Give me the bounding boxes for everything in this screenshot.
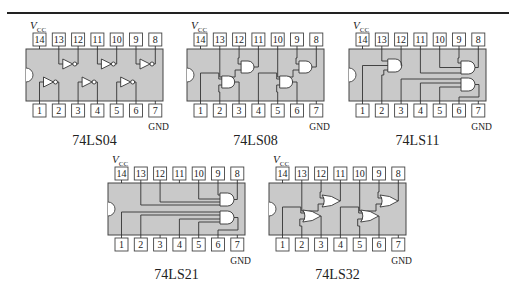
chip-part-number: 74LS21: [154, 267, 198, 282]
chip-part-number: 74LS11: [396, 133, 440, 148]
and-gate-icon: [241, 61, 254, 73]
pin-number: 10: [355, 168, 365, 179]
pin-number: 4: [256, 105, 261, 116]
pin-number: 11: [254, 34, 264, 45]
pin-number: 5: [275, 105, 280, 116]
vcc-label: VCC: [30, 19, 46, 34]
pin-number: 8: [476, 34, 481, 45]
pin-number: 2: [56, 105, 61, 116]
gnd-label: GND: [309, 122, 330, 132]
vcc-label: VCC: [353, 19, 369, 34]
pin-number: 11: [93, 34, 103, 45]
and-gate-icon: [220, 211, 234, 224]
gnd-label: GND: [391, 256, 412, 266]
pin-number: 8: [235, 168, 240, 179]
logic-ic-pinout-diagram: 1413121110981234567VCCGND74LS04141312111…: [0, 0, 509, 297]
vcc-label: VCC: [273, 153, 289, 168]
chip-74ls32: 1413121110981234567VCCGND74LS32: [269, 153, 412, 282]
inversion-bubble-icon: [131, 80, 135, 84]
chip-74ls11: 1413121110981234567VCCGND74LS11: [349, 19, 492, 148]
chip-body: [187, 49, 324, 101]
pin-number: 1: [119, 239, 124, 250]
chip-body: [108, 183, 245, 235]
inversion-bubble-icon: [111, 62, 115, 66]
pin-number: 14: [117, 168, 127, 179]
and-gate-icon: [222, 76, 235, 88]
inversion-bubble-icon: [150, 62, 154, 66]
pin-number: 4: [338, 239, 343, 250]
pin-number: 7: [153, 105, 158, 116]
pin-number: 11: [416, 34, 426, 45]
pin-number: 1: [37, 105, 42, 116]
pin-number: 10: [435, 34, 445, 45]
pin-number: 8: [314, 34, 319, 45]
pin-number: 2: [138, 239, 143, 250]
chip-74ls04: 1413121110981234567VCCGND74LS04: [26, 19, 169, 148]
pin-number: 8: [396, 168, 401, 179]
chip-74ls21: 1413121110981234567VCCGND74LS21: [108, 153, 251, 282]
pin-number: 1: [360, 105, 365, 116]
pin-number: 5: [114, 105, 119, 116]
pin-number: 10: [273, 34, 283, 45]
pin-number: 8: [153, 34, 158, 45]
pin-number: 2: [299, 239, 304, 250]
pin-number: 12: [155, 168, 165, 179]
pin-number: 9: [295, 34, 300, 45]
pin-number: 13: [215, 34, 225, 45]
pin-number: 5: [357, 239, 362, 250]
and-gate-icon: [461, 78, 475, 91]
pin-number: 10: [194, 168, 204, 179]
pin-number: 9: [377, 168, 382, 179]
gnd-label: GND: [148, 122, 169, 132]
pin-number: 11: [336, 168, 346, 179]
inversion-bubble-icon: [73, 62, 77, 66]
pin-number: 13: [377, 34, 387, 45]
pin-number: 7: [235, 239, 240, 250]
pin-number: 1: [198, 105, 203, 116]
gnd-label: GND: [471, 122, 492, 132]
pin-number: 1: [280, 239, 285, 250]
pin-number: 9: [457, 34, 462, 45]
and-gate-icon: [388, 59, 402, 72]
chip-part-number: 74LS08: [233, 133, 277, 148]
chip-body: [269, 183, 406, 235]
vcc-label: VCC: [191, 19, 207, 34]
pin-number: 6: [377, 239, 382, 250]
inversion-bubble-icon: [92, 80, 96, 84]
pin-number: 10: [112, 34, 122, 45]
and-gate-icon: [299, 61, 312, 73]
chip-body: [26, 49, 163, 101]
inversion-bubble-icon: [54, 80, 58, 84]
pin-number: 3: [158, 239, 163, 250]
pin-number: 14: [196, 34, 206, 45]
pin-number: 3: [319, 239, 324, 250]
vcc-label: VCC: [112, 153, 128, 168]
pin-number: 3: [237, 105, 242, 116]
pin-number: 4: [95, 105, 100, 116]
pin-number: 12: [234, 34, 244, 45]
pin-number: 9: [134, 34, 139, 45]
pin-number: 6: [457, 105, 462, 116]
pin-number: 7: [314, 105, 319, 116]
pin-number: 7: [396, 239, 401, 250]
chip-part-number: 74LS32: [315, 267, 359, 282]
pin-number: 4: [177, 239, 182, 250]
pin-number: 7: [476, 105, 481, 116]
pin-number: 4: [418, 105, 423, 116]
pin-number: 14: [278, 168, 288, 179]
pin-number: 2: [379, 105, 384, 116]
pin-number: 6: [295, 105, 300, 116]
pin-number: 6: [134, 105, 139, 116]
pin-number: 2: [217, 105, 222, 116]
pin-number: 14: [35, 34, 45, 45]
pin-number: 12: [73, 34, 83, 45]
chip-body: [349, 49, 486, 101]
pin-number: 6: [216, 239, 221, 250]
pin-number: 3: [76, 105, 81, 116]
gnd-label: GND: [230, 256, 251, 266]
pin-number: 13: [54, 34, 64, 45]
pin-number: 13: [297, 168, 307, 179]
pin-number: 13: [136, 168, 146, 179]
pin-number: 3: [399, 105, 404, 116]
and-gate-icon: [461, 61, 475, 74]
